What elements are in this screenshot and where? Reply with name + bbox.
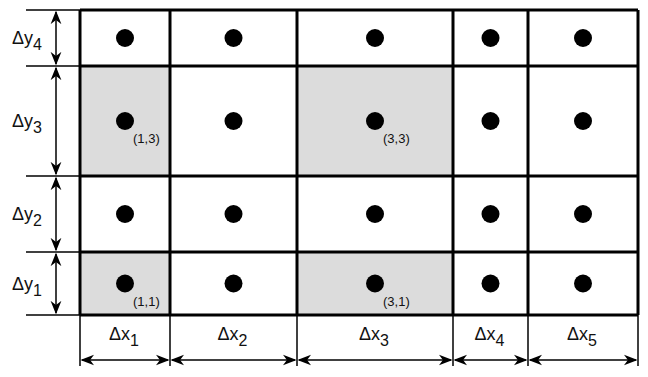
grid-diagram: (1,3)(3,3)(1,1)(3,1)Δy4Δy3Δy2Δy1Δx1Δx2Δx…	[0, 0, 648, 377]
cell-center-dot	[225, 275, 243, 293]
y-dimension-label: Δy3	[12, 111, 42, 136]
x-dimension-label: Δx3	[359, 324, 389, 349]
cell-index-label: (1,3)	[133, 131, 160, 146]
x-dimension-label: Δx1	[109, 324, 139, 349]
cell-index-label: (1,1)	[133, 294, 160, 309]
y-dimension-label: Δy1	[12, 274, 42, 299]
cell-center-dot	[482, 112, 500, 130]
y-dimension-label: Δy4	[12, 28, 42, 53]
cell-center-dot	[116, 205, 134, 223]
y-dimension-label: Δy2	[12, 204, 42, 229]
cell-center-dot	[366, 205, 384, 223]
x-dimension-label: Δx5	[567, 324, 597, 349]
cell-center-dot	[225, 29, 243, 47]
cell-center-dot	[482, 205, 500, 223]
shaded-cells	[80, 66, 453, 315]
x-dimension-label: Δx4	[475, 324, 505, 349]
cell-center-dot	[366, 29, 384, 47]
cell-center-dot	[574, 112, 592, 130]
x-dimension-label: Δx2	[218, 324, 248, 349]
cell-center-dot	[574, 29, 592, 47]
cell-center-dot	[482, 29, 500, 47]
cell-center-dot	[366, 275, 384, 293]
cell-center-dot	[366, 112, 384, 130]
cell-center-dot	[225, 112, 243, 130]
cell-index-label: (3,1)	[383, 294, 410, 309]
cell-center-dot	[574, 275, 592, 293]
cell-center-dot	[116, 275, 134, 293]
cell-index-label: (3,3)	[383, 131, 410, 146]
cell-center-dot	[116, 112, 134, 130]
cell-center-dot	[116, 29, 134, 47]
cell-center-dot	[225, 205, 243, 223]
cell-center-dot	[482, 275, 500, 293]
cell-center-dot	[574, 205, 592, 223]
